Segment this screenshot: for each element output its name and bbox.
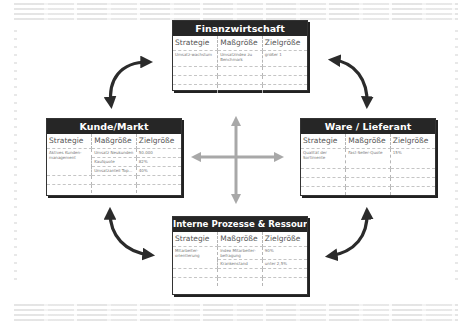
col-header-zielgroesse: Zielgröße xyxy=(262,232,307,247)
table-row-empty xyxy=(301,169,435,178)
col-header-massgroesse: Maßgröße xyxy=(218,36,263,51)
table-row: Mitarbeiter-orientierung Index Mitarbeit… xyxy=(173,247,307,260)
table-row-empty xyxy=(173,67,307,76)
col-header-massgroesse: Maßgröße xyxy=(346,134,391,149)
perspective-kunde-markt: Kunde/Markt Strategie Maßgröße Zielgröße… xyxy=(46,118,182,196)
col-header-strategie: Strategie xyxy=(173,36,218,51)
cell-strategie: Mitarbeiter-orientierung xyxy=(173,247,218,269)
table-row: Aktives Kunden-management Umsatz Neukund… xyxy=(47,149,181,158)
scorecard-table: Strategie Maßgröße Zielgröße Mitarbeiter… xyxy=(173,232,307,286)
perspective-title: Kunde/Markt xyxy=(47,119,181,134)
col-header-zielgroesse: Zielgröße xyxy=(136,134,181,149)
perspective-interne-prozesse: Interne Prozesse & Ressourcen Strategie … xyxy=(172,216,308,295)
cell-massgroesse: Kaufquote xyxy=(92,158,137,167)
perspective-title: Interne Prozesse & Ressourcen xyxy=(173,217,307,232)
scorecard-table: Strategie Maßgröße Zielgröße Qualität de… xyxy=(301,134,435,195)
table-row-empty xyxy=(47,185,181,194)
curved-arrow-finanz-ware-icon xyxy=(333,60,367,104)
table-row-empty xyxy=(47,176,181,185)
perspective-ware-lieferant: Ware / Lieferant Strategie Maßgröße Ziel… xyxy=(300,118,436,196)
cell-zielgroesse: 15% xyxy=(390,149,435,169)
col-header-strategie: Strategie xyxy=(301,134,346,149)
col-header-zielgroesse: Zielgröße xyxy=(262,36,307,51)
table-row-empty xyxy=(173,76,307,85)
cell-zielgroesse: unter 2,5% xyxy=(262,260,307,269)
cell-massgroesse: Umsatz Neukunden xyxy=(92,149,137,158)
col-header-strategie: Strategie xyxy=(173,232,218,247)
curved-arrow-kunde-finanz-icon xyxy=(111,62,148,104)
cell-zielgroesse: 50.000 xyxy=(136,149,181,158)
cell-massgroesse: Index Mitarbeiter-befragung xyxy=(218,247,263,260)
cell-zielgroesse: 40% xyxy=(136,167,181,176)
perspective-title: Finanzwirtschaft xyxy=(173,21,307,36)
scorecard-table: Strategie Maßgröße Zielgröße Aktives Kun… xyxy=(47,134,181,193)
table-row-empty xyxy=(173,278,307,287)
cell-massgroesse: Umsatzindex zu Benchmark xyxy=(218,51,263,67)
cell-strategie: Umsatz-wachstum xyxy=(173,51,218,67)
table-row-empty xyxy=(173,85,307,94)
table-row-empty xyxy=(173,269,307,278)
table-row: Umsatz-wachstum Umsatzindex zu Benchmark… xyxy=(173,51,307,67)
cell-strategie: Qualität der Sortimente xyxy=(301,149,346,169)
col-header-massgroesse: Maßgröße xyxy=(218,232,263,247)
cell-zielgroesse: 82% xyxy=(136,158,181,167)
table-row: Qualität der Sortimente Fast-Seller-Quot… xyxy=(301,149,435,169)
col-header-massgroesse: Maßgröße xyxy=(92,134,137,149)
cell-zielgroesse: größer 1 xyxy=(262,51,307,67)
cell-zielgroesse: 90% xyxy=(262,247,307,260)
curved-arrow-ware-intern-icon xyxy=(330,212,367,256)
perspective-title: Ware / Lieferant xyxy=(301,119,435,134)
table-row-empty xyxy=(301,187,435,196)
cell-strategie: Aktives Kunden-management xyxy=(47,149,92,176)
col-header-strategie: Strategie xyxy=(47,134,92,149)
perspective-finanzwirtschaft: Finanzwirtschaft Strategie Maßgröße Ziel… xyxy=(172,20,308,91)
curved-arrow-intern-kunde-icon xyxy=(110,212,150,255)
col-header-zielgroesse: Zielgröße xyxy=(390,134,435,149)
center-cross-arrow-icon xyxy=(195,120,280,200)
cell-massgroesse: Fast-Seller-Quote xyxy=(346,149,391,169)
cell-massgroesse: Umsatzanteil Top... xyxy=(92,167,137,176)
scorecard-table: Strategie Maßgröße Zielgröße Umsatz-wach… xyxy=(173,36,307,93)
cell-massgroesse: Krankenstand xyxy=(218,260,263,269)
table-row-empty xyxy=(301,178,435,187)
